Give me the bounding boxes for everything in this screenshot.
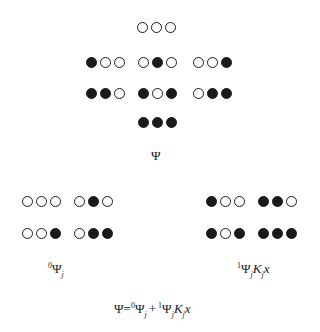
plus-sign: + xyxy=(149,301,156,316)
filled-circle-icon xyxy=(272,196,283,207)
x-symbol: x xyxy=(264,261,270,276)
open-circle-icon xyxy=(286,196,297,207)
open-circle-icon xyxy=(50,196,61,207)
subspace-0-label: 0Ψj xyxy=(48,262,64,275)
filled-circle-icon xyxy=(206,228,217,239)
open-circle-icon xyxy=(207,57,218,68)
decomposition-equation: Ψ=0Ψj+1ΨjKjx xyxy=(114,302,191,315)
full-space-label: Ψ xyxy=(151,149,161,162)
subspace-0-triplet-001 xyxy=(22,228,61,239)
full-space-triplet-111 xyxy=(138,117,177,128)
filled-circle-icon xyxy=(88,228,99,239)
filled-circle-icon xyxy=(166,88,177,99)
open-circle-icon xyxy=(152,88,163,99)
filled-circle-icon xyxy=(166,117,177,128)
subspace-1-triplet-111 xyxy=(258,228,297,239)
subspace-0-triplet-011 xyxy=(74,228,113,239)
subspace-1-triplet-101 xyxy=(206,228,245,239)
filled-circle-icon xyxy=(152,117,163,128)
filled-circle-icon xyxy=(207,88,218,99)
psi-symbol: Ψ xyxy=(241,261,251,276)
open-circle-icon xyxy=(193,88,204,99)
filled-circle-icon xyxy=(138,117,149,128)
subspace-0-triplet-010 xyxy=(74,196,113,207)
subspace-1-label: 1ΨjKjx xyxy=(237,262,270,275)
full-space-triplet-010 xyxy=(138,57,177,68)
open-circle-icon xyxy=(138,57,149,68)
subspace-1-triplet-110 xyxy=(258,196,297,207)
psi-symbol: Ψ xyxy=(135,301,145,316)
filled-circle-icon xyxy=(272,228,283,239)
open-circle-icon xyxy=(36,228,47,239)
filled-circle-icon xyxy=(234,228,245,239)
filled-circle-icon xyxy=(152,57,163,68)
open-circle-icon xyxy=(22,228,33,239)
filled-circle-icon xyxy=(258,196,269,207)
filled-circle-icon xyxy=(221,88,232,99)
open-circle-icon xyxy=(114,88,125,99)
k-symbol: K xyxy=(174,301,183,316)
subspace-1-triplet-100 xyxy=(206,196,245,207)
subscript-j: j xyxy=(62,270,64,279)
open-circle-icon xyxy=(166,57,177,68)
open-circle-icon xyxy=(74,228,85,239)
open-circle-icon xyxy=(220,228,231,239)
full-space-triplet-110 xyxy=(86,88,125,99)
filled-circle-icon xyxy=(138,88,149,99)
filled-circle-icon xyxy=(221,57,232,68)
filled-circle-icon xyxy=(286,228,297,239)
filled-circle-icon xyxy=(100,88,111,99)
psi-symbol: Ψ xyxy=(162,301,172,316)
subspace-0-triplet-000 xyxy=(22,196,61,207)
full-space-triplet-001 xyxy=(193,57,232,68)
full-space-triplet-101 xyxy=(138,88,177,99)
open-circle-icon xyxy=(102,196,113,207)
full-space-triplet-000 xyxy=(137,22,176,33)
filled-circle-icon xyxy=(86,57,97,68)
open-circle-icon xyxy=(234,196,245,207)
open-circle-icon xyxy=(193,57,204,68)
filled-circle-icon xyxy=(86,88,97,99)
open-circle-icon xyxy=(36,196,47,207)
full-space-triplet-011 xyxy=(193,88,232,99)
x-symbol: x xyxy=(185,301,191,316)
filled-circle-icon xyxy=(206,196,217,207)
full-space-triplet-100 xyxy=(86,57,125,68)
open-circle-icon xyxy=(100,57,111,68)
open-circle-icon xyxy=(137,22,148,33)
open-circle-icon xyxy=(220,196,231,207)
open-circle-icon xyxy=(151,22,162,33)
psi-symbol: Ψ xyxy=(52,261,62,276)
subscript-j: j xyxy=(145,310,147,319)
filled-circle-icon xyxy=(50,228,61,239)
filled-circle-icon xyxy=(102,228,113,239)
open-circle-icon xyxy=(74,196,85,207)
filled-circle-icon xyxy=(88,196,99,207)
psi-symbol: Ψ xyxy=(151,148,161,163)
filled-circle-icon xyxy=(258,228,269,239)
open-circle-icon xyxy=(22,196,33,207)
equals-sign: = xyxy=(124,301,131,316)
k-symbol: K xyxy=(253,261,262,276)
open-circle-icon xyxy=(165,22,176,33)
open-circle-icon xyxy=(114,57,125,68)
psi-symbol: Ψ xyxy=(114,301,124,316)
